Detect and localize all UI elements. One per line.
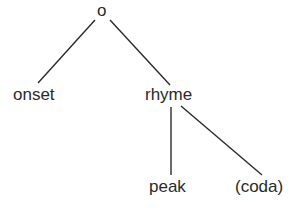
edge-root-onset [38,20,95,83]
node-onset: onset [13,86,55,103]
node-coda: (coda) [235,178,283,195]
edge-root-rhyme [110,20,170,85]
edge-rhyme-coda [181,106,262,175]
node-peak: peak [149,178,186,195]
node-root: o [97,2,106,19]
node-rhyme: rhyme [145,86,192,103]
